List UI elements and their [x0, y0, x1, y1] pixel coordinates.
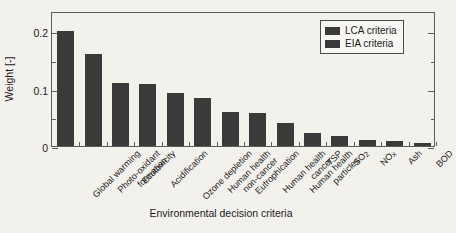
bar — [277, 123, 294, 146]
x-axis-tick — [326, 142, 327, 146]
x-axis-tick — [244, 142, 245, 146]
bar — [57, 31, 74, 146]
bar — [194, 98, 211, 146]
x-tick-label: NOx — [379, 149, 399, 169]
bar — [139, 84, 156, 146]
bar — [386, 141, 403, 146]
x-axis-tick — [107, 142, 108, 146]
x-axis-tick — [354, 142, 355, 146]
x-tick-label: BOD — [435, 149, 456, 170]
x-axis-tick — [381, 142, 382, 146]
bar — [249, 113, 266, 146]
x-axis-tick — [436, 142, 437, 146]
bar — [112, 83, 129, 146]
legend-item: EIA criteria — [325, 37, 397, 50]
bar — [85, 54, 102, 146]
y-axis-tick — [52, 33, 58, 34]
y-axis-minor-tick — [52, 62, 56, 63]
bar — [331, 136, 348, 146]
legend-swatch-icon — [325, 27, 340, 35]
bar — [359, 140, 376, 146]
y-axis-tick — [52, 91, 58, 92]
legend-swatch-icon — [325, 40, 340, 48]
x-axis-tick — [299, 142, 300, 146]
x-axis-tick — [79, 142, 80, 146]
legend-label: EIA criteria — [345, 38, 393, 49]
x-axis-tick — [409, 142, 410, 146]
y-axis-tick-label: 0.1 — [33, 85, 48, 96]
legend-item: LCA criteria — [325, 24, 397, 37]
x-axis-tick — [217, 142, 218, 146]
x-tick-label: Ash — [406, 149, 424, 167]
x-axis-tick — [271, 142, 272, 146]
bar — [222, 112, 239, 146]
y-axis-tick — [428, 91, 434, 92]
x-axis-tick — [189, 142, 190, 146]
y-axis-minor-tick — [431, 62, 435, 63]
bar — [304, 133, 321, 146]
y-axis-minor-tick — [431, 119, 435, 120]
bar — [167, 93, 184, 146]
legend: LCA criteria EIA criteria — [320, 20, 404, 54]
y-axis-title: Weight [-] — [3, 57, 15, 102]
y-axis-tick-label: 0.2 — [33, 28, 48, 39]
legend-label: LCA criteria — [345, 25, 397, 36]
y-axis-tick — [428, 33, 434, 34]
x-axis-tick — [134, 142, 135, 146]
y-axis-minor-tick — [52, 119, 56, 120]
y-axis-tick-label: 0 — [42, 143, 48, 154]
x-axis-title: Environmental decision criteria — [0, 207, 442, 219]
x-axis-tick — [162, 142, 163, 146]
bar — [414, 143, 431, 146]
x-tick-label-group: Global warmingPhoto-oxidantformationEcot… — [51, 149, 435, 207]
